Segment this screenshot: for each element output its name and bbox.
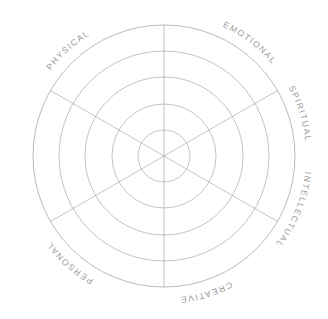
axis-label-creative-text: CREATIVE [179, 280, 234, 305]
axis-label-physical-text: PHYSICAL [44, 28, 91, 72]
axis-label-intellectual-text: INTELLECTUAL [273, 171, 313, 250]
axis-label-spiritual: SPIRITUAL [287, 84, 314, 143]
radar-chart-svg: PHYSICAL EMOTIONAL INTELLECTUAL CREATIVE… [0, 0, 328, 319]
axis-label-creative: CREATIVE [179, 280, 234, 305]
axis-label-physical: PHYSICAL [44, 28, 91, 72]
wellness-wheel-chart: PHYSICAL EMOTIONAL INTELLECTUAL CREATIVE… [0, 0, 328, 319]
axis-label-intellectual: INTELLECTUAL [273, 171, 313, 250]
axis-spokes [51, 25, 278, 287]
axis-labels: PHYSICAL EMOTIONAL INTELLECTUAL CREATIVE… [44, 19, 313, 305]
axis-label-spiritual-text: SPIRITUAL [287, 84, 314, 143]
